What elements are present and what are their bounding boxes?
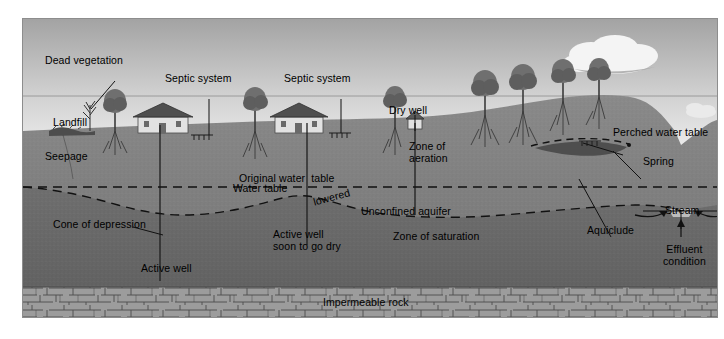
label-zone-of-saturation: Zone of saturation	[393, 231, 479, 243]
label-spring: Spring	[643, 156, 674, 168]
label-active-well-2: Active well soon to go dry	[273, 229, 341, 252]
label-zone-of-aeration: Zone of aeration	[409, 141, 448, 164]
label-seepage: Seepage	[45, 151, 88, 163]
spring-point	[627, 143, 631, 147]
label-water-table: Water table	[233, 183, 287, 195]
label-dead-vegetation: Dead vegetation	[45, 55, 123, 67]
label-dry-well: Dry well	[389, 105, 427, 117]
diagram-stage: Dead vegetation Septic system Septic sys…	[0, 0, 724, 339]
label-effluent-condition: Effluent condition	[663, 244, 706, 267]
label-septic-system-1: Septic system	[165, 73, 232, 85]
label-stream: Stream	[665, 205, 699, 217]
label-septic-system-2: Septic system	[284, 73, 351, 85]
label-cone-of-depression: Cone of depression	[53, 219, 146, 231]
label-impermeable-rock: Impermeable rock	[323, 297, 409, 309]
label-perched-water-table: Perched water table	[613, 127, 708, 139]
label-landfill: Landfill	[53, 117, 87, 129]
diagram-frame: Dead vegetation Septic system Septic sys…	[22, 18, 718, 318]
label-active-well-1: Active well	[141, 263, 192, 275]
label-unconfined-aquifer: Unconfined aquifer	[361, 206, 451, 218]
label-aquiclude: Aquiclude	[587, 225, 634, 237]
groundwater-cross-section	[23, 19, 717, 317]
